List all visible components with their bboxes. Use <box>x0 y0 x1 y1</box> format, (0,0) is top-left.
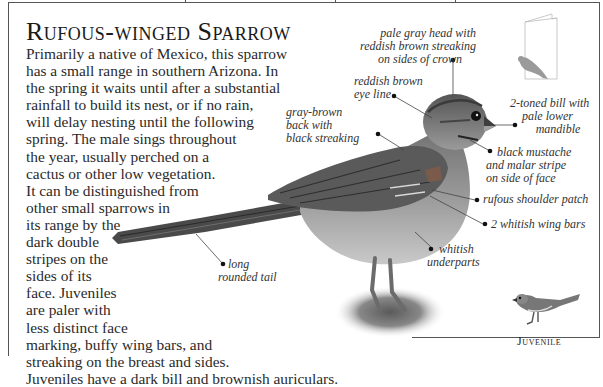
label-line: 2 whitish wing bars <box>491 218 585 231</box>
label-underparts: whitish underparts <box>427 243 480 269</box>
label-line: on sides of crown <box>360 53 476 66</box>
label-eye-line: reddish brown eye line <box>354 75 423 101</box>
label-line: on side of face <box>486 172 571 185</box>
field-guide-book-icon <box>518 14 557 79</box>
eye <box>471 111 481 121</box>
label-line: rounded tail <box>218 271 277 284</box>
label-line: mandible <box>510 123 589 136</box>
ground-patch <box>334 286 446 338</box>
juvenile-label: Juvenile <box>517 334 561 349</box>
tail <box>112 200 318 244</box>
label-line: rufous shoulder patch <box>483 193 588 206</box>
label-wing-bars: 2 whitish wing bars <box>491 218 585 231</box>
label-line: black streaking <box>286 132 359 145</box>
label-line: underparts <box>427 256 480 269</box>
juvenile-sparrow-illustration <box>512 294 580 324</box>
label-bill: 2-toned bill with pale lower mandible <box>510 97 589 136</box>
description-line: Juveniles have a dark bill and brownish … <box>26 370 338 387</box>
label-tail: long rounded tail <box>218 258 277 284</box>
label-line: eye line <box>354 88 423 101</box>
label-crown: pale gray head with reddish brown streak… <box>360 27 476 66</box>
label-back: gray-brown back with black streaking <box>286 106 359 145</box>
label-shoulder: rufous shoulder patch <box>483 193 588 206</box>
label-mustache: black mustache and malar stripe on side … <box>486 146 571 185</box>
